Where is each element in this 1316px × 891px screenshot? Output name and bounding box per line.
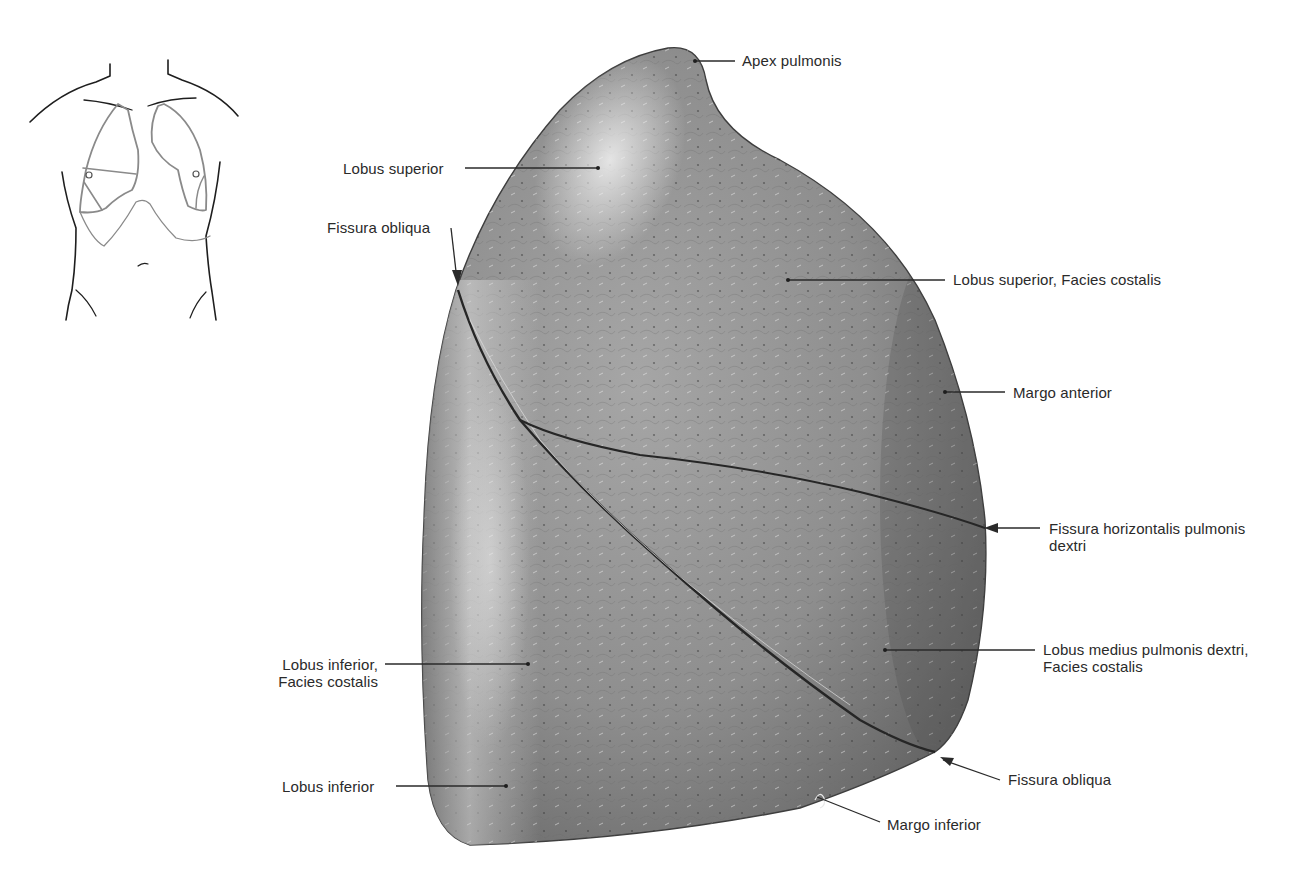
label-lobus-medius-line2: Facies costalis: [1043, 658, 1249, 675]
label-fissura-horizontalis: Fissura horizontalis pulmonis dextri: [1049, 520, 1245, 554]
label-margo-anterior: Margo anterior: [1013, 384, 1112, 401]
label-lobus-inferior-facies-costalis-line1: Lobus inferior,: [264, 656, 378, 673]
label-fissura-obliqua-bottom: Fissura obliqua: [1008, 771, 1111, 788]
right-lung-illustration: [0, 0, 1316, 891]
label-lobus-inferior: Lobus inferior: [282, 778, 374, 795]
label-lobus-medius-line1: Lobus medius pulmonis dextri,: [1043, 641, 1249, 658]
leader-margo-inferior: [817, 797, 880, 822]
label-fissura-horizontalis-line2: dextri: [1049, 537, 1245, 554]
anatomy-figure: Apex pulmonis Lobus superior Fissura obl…: [0, 0, 1316, 891]
label-lobus-superior-facies-costalis: Lobus superior, Facies costalis: [953, 271, 1161, 288]
leader-fissura-obliqua-bottom: [943, 760, 1000, 780]
arrow-fissura-obliqua-bottom: [940, 757, 954, 766]
label-lobus-inferior-facies-costalis-line2: Facies costalis: [264, 673, 378, 690]
label-lobus-superior: Lobus superior: [343, 160, 444, 177]
label-lobus-medius: Lobus medius pulmonis dextri, Facies cos…: [1043, 641, 1249, 675]
label-fissura-obliqua-top: Fissura obliqua: [327, 219, 430, 236]
label-fissura-horizontalis-line1: Fissura horizontalis pulmonis: [1049, 520, 1245, 537]
lung-body: [420, 33, 1000, 860]
label-lobus-inferior-facies-costalis: Lobus inferior, Facies costalis: [264, 656, 378, 690]
label-apex-pulmonis: Apex pulmonis: [742, 52, 842, 69]
label-margo-inferior: Margo inferior: [887, 816, 981, 833]
